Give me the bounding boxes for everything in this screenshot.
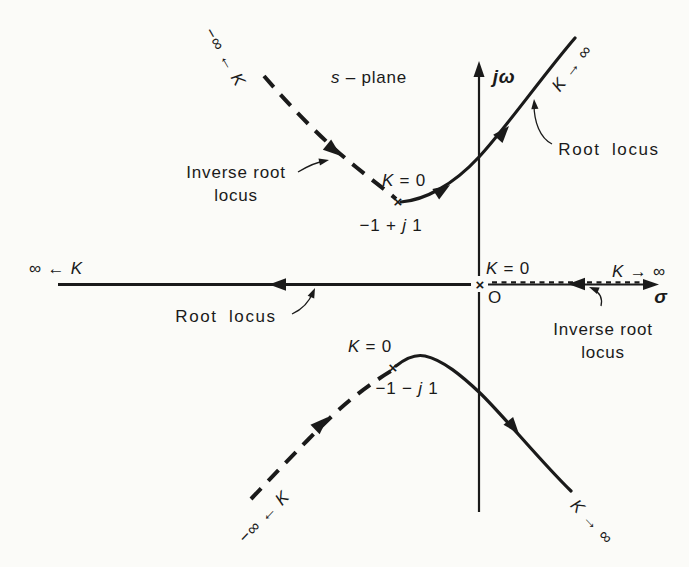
k-symbol: K — [71, 259, 83, 278]
pole-value-lower: −1 − j 1 — [375, 380, 438, 397]
leader-root-locus-upper — [534, 104, 552, 144]
equals-zero: = 0 — [498, 259, 530, 278]
leader-root-locus-left-arrowhead — [308, 287, 319, 299]
equals-zero: = 0 — [360, 337, 392, 356]
s-symbol: s — [331, 68, 340, 87]
inverse-upper-arrowhead — [323, 140, 345, 162]
root-locus-upper-arrowhead-2 — [493, 122, 514, 143]
label-line-2: locus — [214, 186, 258, 205]
pole-marker-origin: × — [476, 276, 485, 293]
s-plane-label: s – plane — [331, 69, 407, 86]
k-symbol: K — [382, 171, 394, 190]
label-line-1: Inverse root — [186, 163, 285, 182]
pole-value-upper: −1 + j 1 — [359, 217, 422, 234]
infinity-arrow: ∞ ← — [29, 259, 71, 278]
origin-label: O — [488, 289, 502, 306]
inverse-root-locus-lower-curve — [251, 371, 391, 499]
inverse-axis-arrowhead — [568, 278, 585, 290]
value-post: 1 — [423, 379, 439, 398]
to-infinity: → ∞ — [624, 262, 666, 281]
label-line-1: Inverse root — [553, 320, 652, 339]
sigma-axis-label: σ — [654, 287, 667, 306]
pole-marker-lower: × — [389, 359, 398, 376]
k-to-infinity-axis-right: K → ∞ — [612, 263, 666, 280]
s-plane-text: – plane — [340, 68, 407, 87]
inverse-root-locus-upper-label: Inverse rootlocus — [186, 161, 285, 207]
k-symbol: K — [486, 259, 498, 278]
leader-root-locus-upper-arrowhead — [530, 99, 538, 110]
equals-zero: = 0 — [394, 171, 426, 190]
root-locus-axis-arrowhead — [269, 278, 286, 290]
value-pre: −1 − — [375, 379, 418, 398]
k-zero-lower-label: K = 0 — [348, 338, 392, 355]
jw-axis-arrowhead — [474, 61, 485, 77]
value-post: 1 — [407, 216, 423, 235]
infinity-from-k-axis-left: ∞ ← K — [29, 260, 83, 277]
root-locus-lower-curve — [396, 355, 571, 491]
inverse-lower-arrowhead — [310, 412, 332, 434]
root-locus-upper-curve — [401, 38, 575, 202]
k-zero-upper-label: K = 0 — [382, 172, 426, 189]
root-locus-figure: s – plane jω σ O × × × K = 0 K = 0 K = 0… — [0, 0, 689, 567]
label-line-2: locus — [581, 343, 625, 362]
k-symbol: K — [348, 337, 360, 356]
root-locus-upper-label: Root locus — [558, 141, 659, 158]
k-zero-origin-label: K = 0 — [486, 260, 530, 277]
inverse-root-locus-lower-label: Inverse rootlocus — [553, 318, 652, 364]
leader-inverse-upper-arrowhead — [318, 156, 329, 165]
k-symbol: K — [612, 262, 624, 281]
jw-axis-label: jω — [493, 67, 516, 86]
value-pre: −1 + — [359, 216, 402, 235]
root-locus-left-label: Root locus — [175, 308, 276, 325]
pole-marker-upper: × — [394, 193, 403, 210]
